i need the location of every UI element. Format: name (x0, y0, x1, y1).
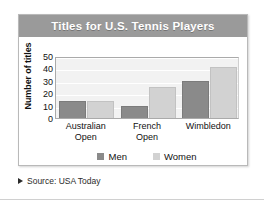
x-axis-category-labels: AustralianOpenFrenchOpenWimbledon (55, 121, 239, 147)
y-axis-tick: 50 (43, 53, 53, 62)
y-axis-title: Number of titles (21, 37, 35, 115)
bar-men-australian-open (59, 101, 86, 118)
chart-title: Titles for U.S. Tennis Players (51, 20, 214, 32)
bars-layer (56, 58, 238, 118)
y-axis-title-text: Number of titles (23, 43, 33, 110)
legend-label-men: Men (108, 151, 126, 162)
y-axis-tick: 40 (43, 65, 53, 74)
legend-swatch-men (97, 153, 104, 160)
figure-root: Titles for U.S. Tennis Players Number of… (0, 0, 264, 203)
chart-title-band: Titles for U.S. Tennis Players (19, 15, 247, 37)
bottom-divider (0, 199, 264, 200)
bar-women-wimbledon (210, 67, 237, 118)
chart-legend: MenWomen (55, 149, 239, 163)
y-axis-tick-labels: 50403020100 (35, 57, 53, 119)
bar-women-french-open (149, 87, 176, 118)
x-axis-label-wimbledon: Wimbledon (178, 121, 239, 132)
bar-men-wimbledon (182, 81, 209, 118)
plot-area (55, 57, 239, 119)
legend-item-men: Men (97, 151, 126, 162)
legend-swatch-women (153, 153, 160, 160)
y-axis-tick: 10 (43, 102, 53, 111)
source-text: Source: USA Today (27, 176, 101, 186)
y-axis-tick: 20 (43, 90, 53, 99)
bar-women-australian-open (87, 101, 114, 118)
legend-item-women: Women (153, 151, 197, 162)
y-axis-tick: 0 (48, 115, 53, 124)
chart-card: Titles for U.S. Tennis Players Number of… (18, 14, 248, 166)
x-axis-label-australian-open: AustralianOpen (55, 121, 116, 143)
bar-men-french-open (121, 106, 148, 118)
legend-label-women: Women (164, 151, 197, 162)
chart-body: Number of titles 50403020100 AustralianO… (19, 37, 247, 165)
x-axis-label-french-open: FrenchOpen (116, 121, 177, 143)
triangle-right-icon (18, 178, 23, 184)
y-axis-tick: 30 (43, 77, 53, 86)
source-line: Source: USA Today (18, 176, 101, 186)
